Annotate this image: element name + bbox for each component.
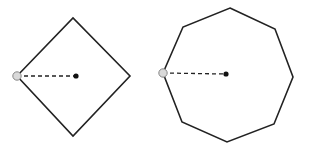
diamond-marked-vertex xyxy=(13,72,21,80)
octagon-radius-dashed-line xyxy=(163,73,226,74)
diagram-canvas xyxy=(0,0,309,151)
diamond-figure xyxy=(13,18,130,136)
octagon-center-dot xyxy=(223,71,228,76)
octagon-marked-vertex xyxy=(159,69,167,77)
diamond-shape xyxy=(17,18,130,136)
diamond-center-dot xyxy=(73,73,78,78)
octagon-figure xyxy=(159,8,293,142)
